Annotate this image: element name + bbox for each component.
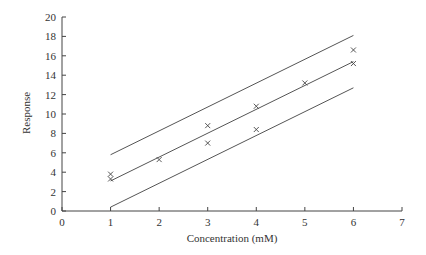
- x-tick-label: 2: [156, 216, 162, 228]
- y-tick-label: 4: [51, 166, 57, 178]
- x-axis-label: Concentration (mM): [187, 232, 278, 245]
- data-point-x-marker: [254, 104, 259, 109]
- y-tick-label: 2: [51, 186, 57, 198]
- x-tick-label: 3: [205, 216, 211, 228]
- data-point-x-marker: [254, 127, 259, 132]
- data-point-x-marker: [351, 47, 356, 52]
- y-tick-label: 10: [45, 108, 57, 120]
- data-point-x-marker: [205, 123, 210, 128]
- x-tick-label: 5: [302, 216, 308, 228]
- fit-line: [111, 35, 354, 154]
- y-tick-label: 14: [45, 69, 57, 81]
- y-tick-label: 20: [45, 11, 57, 23]
- y-tick-label: 8: [51, 127, 57, 139]
- plot-area: [108, 35, 356, 207]
- x-tick-label: 7: [399, 216, 405, 228]
- x-tick-label: 0: [59, 216, 65, 228]
- data-point-x-marker: [205, 141, 210, 146]
- y-axis-label: Response: [20, 92, 32, 134]
- data-point-x-marker: [302, 80, 307, 85]
- y-tick-label: 0: [51, 205, 57, 217]
- x-axis: 01234567: [59, 207, 405, 228]
- y-tick-label: 6: [51, 147, 57, 159]
- y-tick-label: 16: [45, 50, 57, 62]
- data-point-x-marker: [157, 157, 162, 162]
- data-point-x-marker: [108, 172, 113, 177]
- x-tick-label: 1: [108, 216, 114, 228]
- x-tick-label: 6: [351, 216, 357, 228]
- fit-line: [111, 62, 354, 181]
- fit-line: [111, 88, 354, 207]
- y-tick-label: 12: [45, 89, 56, 101]
- y-axis: 02468101214161820: [45, 11, 66, 217]
- chart: 01234567 02468101214161820 Concentration…: [0, 0, 426, 255]
- y-tick-label: 18: [45, 30, 57, 42]
- x-tick-label: 4: [254, 216, 260, 228]
